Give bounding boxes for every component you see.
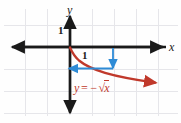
graph-canvas bbox=[0, 0, 181, 123]
y-axis-name-label: y bbox=[67, 4, 72, 16]
x-axis-name-label: x bbox=[169, 41, 174, 53]
equation-equals: = bbox=[80, 81, 88, 95]
graph-figure: 1 1 y x y=−√x bbox=[0, 0, 181, 123]
equation-radicand: x bbox=[104, 80, 109, 95]
grid-lines bbox=[4, 9, 178, 116]
x-axis-tick-label-1: 1 bbox=[82, 50, 88, 61]
equation-minus-sign: − bbox=[89, 81, 97, 95]
equation-label: y=−√x bbox=[74, 82, 109, 94]
y-axis-tick-label-1: 1 bbox=[58, 25, 64, 36]
equation-lhs: y bbox=[74, 81, 79, 95]
